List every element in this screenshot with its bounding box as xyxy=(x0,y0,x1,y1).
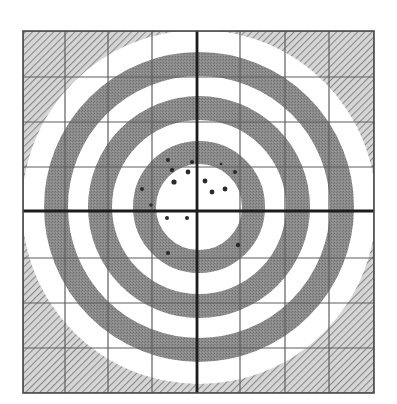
shot-hole xyxy=(186,170,191,175)
shot-hole xyxy=(171,179,176,184)
shot-hole xyxy=(223,187,228,192)
shot-hole xyxy=(166,251,170,255)
shot-hole xyxy=(149,203,153,207)
shot-hole xyxy=(185,216,189,220)
shot-hole xyxy=(166,158,170,162)
shot-hole xyxy=(236,243,240,247)
shot-hole xyxy=(190,160,194,164)
shot-hole xyxy=(220,163,223,166)
shot-hole xyxy=(210,190,215,195)
outer-white-disc xyxy=(22,30,376,384)
shot-hole xyxy=(165,216,169,220)
target-diagram xyxy=(0,0,397,404)
shot-hole xyxy=(170,168,174,172)
shot-hole xyxy=(233,170,237,174)
shot-hole xyxy=(203,179,208,184)
shot-hole xyxy=(140,187,144,191)
